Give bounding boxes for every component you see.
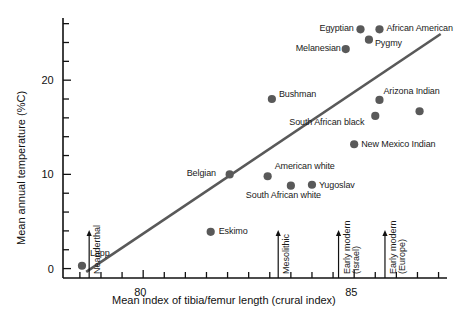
data-point (264, 172, 272, 180)
point-label: Eskimo (219, 227, 248, 236)
data-point (375, 96, 383, 104)
reference-arrow-head-1 (87, 230, 92, 236)
data-point (78, 262, 86, 270)
y-tick-label: 10 (41, 169, 53, 180)
x-tick-label: 80 (134, 287, 146, 298)
point-label: Bushman (279, 90, 316, 99)
point-label: South African white (246, 191, 321, 200)
data-point (207, 228, 215, 236)
point-label: Egyptian (319, 24, 353, 33)
y-axis-title: Mean annual temperature (%C) (16, 91, 27, 245)
reference-arrow-label: Mesolithic (282, 234, 291, 274)
point-label: South African black (289, 118, 364, 127)
point-label: Melanesian (296, 44, 341, 53)
y-tick-label: 20 (41, 75, 53, 86)
reference-arrow-label: Neanderthal (93, 225, 102, 274)
point-label: African American (386, 24, 452, 33)
point-label: New Mexico Indian (361, 140, 435, 149)
scatter-chart: Mean annual temperature (%C) Mean index … (0, 0, 455, 316)
point-label: Arizona Indian (383, 87, 439, 96)
reference-arrow-head-3 (336, 230, 341, 236)
data-point (342, 45, 350, 53)
data-point (287, 182, 295, 190)
data-point (365, 36, 373, 44)
data-point (268, 95, 276, 103)
data-point (350, 140, 358, 148)
point-label: Yugoslav (319, 181, 355, 190)
data-point (375, 25, 383, 33)
point-label: Belgian (187, 169, 216, 178)
x-tick-label: 85 (345, 287, 357, 298)
point-label: American white (275, 162, 335, 171)
data-point (356, 25, 364, 33)
data-point (308, 181, 316, 189)
reference-arrow-sublabel: (Europe) (398, 239, 407, 274)
reference-arrow-head-4 (382, 230, 387, 236)
data-point (371, 112, 379, 120)
data-point (226, 170, 234, 178)
y-tick-label: 0 (48, 264, 54, 275)
point-label: Pygmy (375, 39, 402, 48)
reference-arrow-sublabel: (Israel) (352, 246, 361, 274)
data-point (415, 107, 423, 115)
